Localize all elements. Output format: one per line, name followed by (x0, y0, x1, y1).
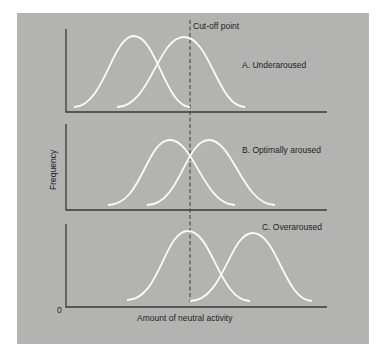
panel-c-label: C. Overaroused (262, 222, 322, 232)
origin-label: 0 (57, 305, 62, 315)
panel-a-axes (66, 29, 327, 112)
panel-a-label: A. Underaroused (242, 60, 307, 70)
panel-b-curve-1 (108, 140, 235, 205)
x-axis-label: Amount of neutral activity (137, 313, 233, 323)
panel-a: A. Underaroused (66, 29, 327, 112)
panel-a-curve-2 (117, 37, 245, 107)
diagram-canvas: Cut-off point A. Underaroused B. Optimal… (0, 0, 384, 360)
panel-c-curve-2 (190, 233, 312, 301)
panel-a-curve-1 (74, 36, 190, 107)
y-axis-label: Frequency (48, 149, 58, 190)
panel-b-label: B. Optimally aroused (242, 145, 321, 155)
panel-c: C. Overaroused (66, 222, 327, 307)
panel-c-curve-1 (127, 231, 250, 301)
panel-c-axes (66, 224, 327, 307)
panel-b: B. Optimally aroused Frequency (48, 124, 327, 210)
cutoff-label: Cut-off point (193, 21, 240, 31)
